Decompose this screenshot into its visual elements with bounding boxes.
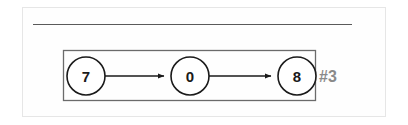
graph-node-label: 0 [186,68,194,85]
graph-node-label: 8 [293,68,301,85]
graph-node-label: 7 [82,68,90,85]
figure-number-label: #3 [319,68,337,85]
linked-list-diagram: 7 0 8 #3 [0,0,408,125]
screenshot-root: 7 0 8 #3 [0,0,408,125]
